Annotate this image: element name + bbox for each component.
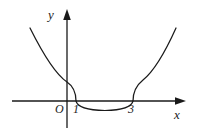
y-axis-label: y — [48, 8, 54, 21]
parabola-plot — [0, 0, 199, 130]
origin-label: O — [55, 103, 64, 115]
x-axis-arrowhead — [175, 97, 186, 105]
x-tick-label-1: 1 — [73, 103, 79, 115]
x-axis-label: x — [174, 108, 180, 121]
parabola-curve — [30, 28, 176, 111]
y-axis-arrowhead — [63, 9, 71, 20]
graph-figure: y x O 1 3 — [0, 0, 199, 130]
x-tick-label-3: 3 — [128, 103, 134, 115]
